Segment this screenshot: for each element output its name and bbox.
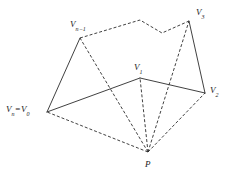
solid-edges — [47, 21, 205, 112]
label-v-2: V2 — [210, 86, 219, 95]
edge-v2-v3 — [189, 21, 205, 93]
label-v-3: V3 — [196, 8, 205, 17]
ray-p-v1 — [140, 78, 148, 152]
ray-p-v3 — [148, 21, 189, 152]
edge-v0-vn1 — [47, 38, 80, 112]
ray-p-v0 — [47, 112, 148, 152]
geometry-diagram — [0, 0, 237, 176]
dashed-edges — [80, 20, 189, 38]
edge-v1-v2 — [140, 78, 205, 93]
label-p: P — [145, 160, 151, 169]
edge-v0-v1 — [47, 78, 140, 112]
edge-top-chain — [80, 20, 189, 38]
label-v-1: V1 — [134, 63, 143, 72]
label-v-0: Vn=V0 — [6, 105, 30, 114]
ray-p-v2 — [148, 93, 205, 152]
label-v-n-minus-1: Vn−1 — [70, 20, 86, 29]
ray-p-vn1 — [80, 38, 148, 152]
dashed-rays — [47, 21, 205, 152]
